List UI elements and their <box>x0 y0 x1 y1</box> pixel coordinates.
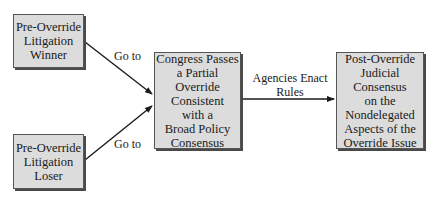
node-label: Congress Passes a Partial Override Consi… <box>156 52 238 150</box>
node-pre-override-loser: Pre-Override Litigation Loser <box>13 134 84 189</box>
edge-label-winner-go-to: Go to <box>114 49 141 63</box>
node-label: Pre-Override Litigation Loser <box>16 141 81 183</box>
node-congress-partial-override: Congress Passes a Partial Override Consi… <box>154 52 241 149</box>
node-post-override-consensus: Post-Override Judicial Consensus on the … <box>336 52 424 149</box>
node-label: Pre-Override Litigation Winner <box>16 20 81 62</box>
edge-label-loser-go-to: Go to <box>114 137 141 151</box>
edge-label-agencies-enact-rules: Agencies Enact Rules <box>248 71 332 99</box>
arrow-loser-to-congress <box>85 106 152 160</box>
node-label: Post-Override Judicial Consensus on the … <box>343 52 416 150</box>
node-pre-override-winner: Pre-Override Litigation Winner <box>13 14 84 68</box>
